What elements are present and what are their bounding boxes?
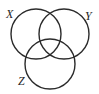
venn-label-x: X [5,7,14,21]
venn-circle-y [39,9,89,59]
venn-label-z: Z [18,74,25,88]
venn-circle-z [25,39,75,89]
venn-label-y: Y [85,9,93,23]
venn-circle-x [11,9,61,59]
venn-diagram-canvas: X Y Z [0,0,99,94]
venn-diagram-figure: X Y Z [0,0,99,94]
